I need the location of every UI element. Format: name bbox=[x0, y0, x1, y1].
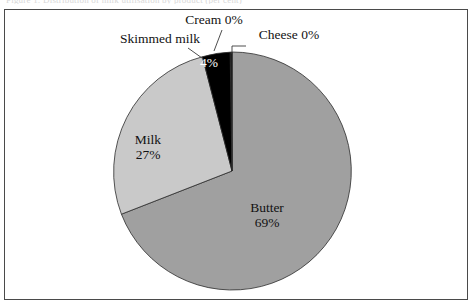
slice-value-skimmed-milk: 4% bbox=[192, 55, 226, 70]
slice-label-butter: Butter 69% bbox=[222, 200, 312, 230]
slice-label-milk-text: Milk bbox=[111, 132, 185, 147]
slice-label-cream-text: Cream 0% bbox=[153, 12, 275, 27]
slice-label-skimmed-milk: Skimmed milk bbox=[96, 31, 224, 46]
slice-label-cheese-text: Cheese 0% bbox=[237, 27, 341, 42]
slice-label-skimmed-milk-text: Skimmed milk bbox=[96, 31, 224, 46]
slice-label-cheese: Cheese 0% bbox=[237, 27, 341, 42]
slice-label-cream: Cream 0% bbox=[153, 12, 275, 27]
pie-chart-plot bbox=[0, 0, 475, 307]
slice-value-butter-text: 69% bbox=[222, 215, 312, 230]
slice-value-milk-text: 27% bbox=[111, 147, 185, 162]
slice-value-skimmed-milk-text: 4% bbox=[192, 55, 226, 70]
slice-label-milk: Milk 27% bbox=[111, 132, 185, 162]
chart-page: Figure 1: Distribution of milk utilisati… bbox=[0, 0, 475, 307]
slice-label-butter-text: Butter bbox=[222, 200, 312, 215]
